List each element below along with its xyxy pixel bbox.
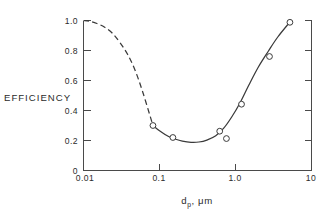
y-tick-label-0.8: 0.8 xyxy=(65,46,78,56)
x-axis-label-rest: , μm xyxy=(192,195,213,206)
data-point-marker xyxy=(217,128,223,134)
x-tick-labels: 0.01 0.1 1.0 10 xyxy=(76,173,316,183)
y-axis-ticks xyxy=(84,21,91,141)
data-point-marker xyxy=(170,135,176,141)
curve-extrapolated-dashed xyxy=(84,21,153,126)
data-point-markers xyxy=(150,19,293,141)
y-tick-label-1.0: 1.0 xyxy=(65,16,78,26)
data-point-marker xyxy=(239,101,245,107)
x-tick-label-10: 10 xyxy=(306,173,316,183)
efficiency-vs-particle-diameter-chart: 1.0 0.8 0.6 0.4 0.2 0 0.01 0.1 1.0 10 EF… xyxy=(0,0,329,216)
x-tick-label-0.01: 0.01 xyxy=(76,173,94,183)
y-tick-label-0.2: 0.2 xyxy=(65,136,78,146)
x-axis-label: dp, μm xyxy=(181,195,213,209)
data-point-marker xyxy=(150,123,156,129)
chart-figure: 1.0 0.8 0.6 0.4 0.2 0 0.01 0.1 1.0 10 EF… xyxy=(0,0,329,216)
data-point-marker xyxy=(267,54,273,60)
y-axis-label: EFFICIENCY xyxy=(4,92,71,103)
x-axis-ticks xyxy=(84,164,312,171)
x-tick-label-0.1: 0.1 xyxy=(152,173,165,183)
y-tick-label-0.4: 0.4 xyxy=(65,106,78,116)
y-tick-label-0.6: 0.6 xyxy=(65,76,78,86)
data-curves xyxy=(84,21,290,143)
plot-axes xyxy=(84,21,312,171)
y-axis-ticks-right xyxy=(305,21,312,141)
data-point-marker xyxy=(287,19,293,25)
svg-text:dp, μm: dp, μm xyxy=(181,195,213,209)
curve-measured-solid xyxy=(153,22,290,142)
data-point-marker xyxy=(224,136,230,142)
x-tick-label-1.0: 1.0 xyxy=(228,173,241,183)
